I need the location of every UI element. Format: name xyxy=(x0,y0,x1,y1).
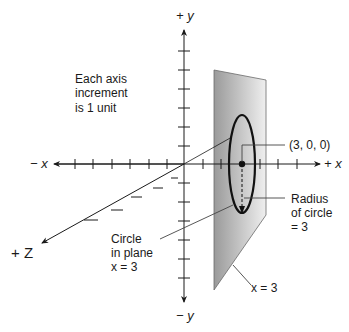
z-axis xyxy=(42,137,232,243)
svg-text:Circle: Circle xyxy=(111,232,142,246)
minus-x-label: − x xyxy=(30,156,48,171)
plane-x-equals-3 xyxy=(214,70,266,290)
svg-text:x = 3: x = 3 xyxy=(111,260,138,274)
x-axis xyxy=(54,159,320,169)
plus-z-label: + Z xyxy=(11,244,33,261)
plane-label: x = 3 xyxy=(251,281,278,295)
svg-text:in plane: in plane xyxy=(111,246,153,260)
minus-y-label: − y xyxy=(176,308,195,323)
svg-text:= 3: = 3 xyxy=(291,220,308,234)
svg-text:Radius: Radius xyxy=(291,192,328,206)
circle-label: Circle in plane x = 3 xyxy=(111,232,153,274)
plus-x-label: + x xyxy=(324,156,342,171)
plus-y-label: + y xyxy=(176,8,195,23)
svg-text:increment: increment xyxy=(75,86,128,100)
3d-coordinate-diagram: + y − y + x − x + Z Each axis increment … xyxy=(0,0,349,332)
radius-label: Radius of circle = 3 xyxy=(291,192,333,234)
point-label: (3, 0, 0) xyxy=(289,138,330,152)
svg-text:is 1 unit: is 1 unit xyxy=(75,101,117,115)
svg-text:of circle: of circle xyxy=(291,206,333,220)
svg-text:Each axis: Each axis xyxy=(75,72,127,86)
axis-increment-note: Each axis increment is 1 unit xyxy=(75,72,128,115)
